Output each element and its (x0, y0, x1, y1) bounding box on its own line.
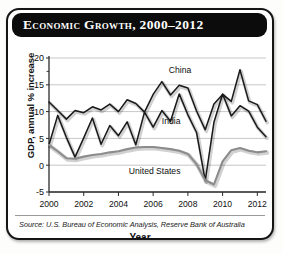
y-tick-label: -5 (36, 187, 44, 197)
x-tick-label: 2004 (109, 199, 128, 209)
series-annotation-india: India (162, 116, 181, 126)
x-axis-label: Year (8, 232, 272, 240)
source-divider (15, 215, 265, 216)
x-tick-label: 2000 (39, 199, 58, 209)
page-title: Economic Growth, 2000–2012 (12, 17, 203, 33)
line-chart: -5051015202000200220042006200820102012Ch… (8, 38, 272, 213)
y-tick-label: 5 (39, 134, 44, 144)
series-annotation-united-states: United States (129, 166, 181, 176)
x-tick-label: 2008 (178, 199, 197, 209)
source-note: Source: U.S. Bureau of Economic Analysis… (19, 220, 269, 229)
y-axis-label: GDP, annual % increase (25, 46, 36, 166)
chart-title-bar: Economic Growth, 2000–2012 (12, 13, 267, 37)
series-annotation-china: China (169, 65, 192, 75)
x-tick-label: 2010 (213, 199, 232, 209)
chart-card: Economic Growth, 2000–2012 GDP, annual %… (6, 8, 274, 240)
x-tick-label: 2012 (248, 199, 267, 209)
plot-area: GDP, annual % increase -5051015202000200… (8, 38, 272, 213)
x-tick-label: 2006 (144, 199, 163, 209)
screenshot-root: Economic Growth, 2000–2012 GDP, annual %… (0, 0, 283, 254)
y-tick-label: 0 (39, 161, 44, 171)
x-tick-label: 2002 (74, 199, 93, 209)
